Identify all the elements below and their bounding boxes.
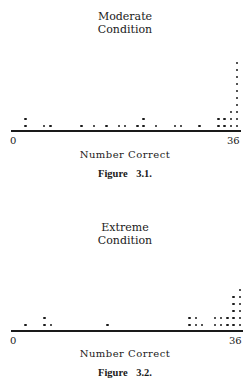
- data-dot: [226, 324, 228, 326]
- data-dot: [232, 303, 234, 305]
- data-dot: [214, 324, 216, 326]
- data-dot: [50, 324, 52, 326]
- data-dot: [226, 317, 228, 319]
- data-dot: [239, 289, 241, 291]
- x-tick-min: 0: [10, 335, 16, 346]
- data-dot: [195, 317, 197, 319]
- dot-plot-area: [0, 0, 250, 340]
- figure-extreme: Extreme Condition 0 36 Number Correct Fi…: [0, 0, 250, 389]
- data-dot: [195, 324, 197, 326]
- data-dot: [214, 317, 216, 319]
- data-dot: [24, 324, 26, 326]
- data-dot: [232, 296, 234, 298]
- data-dot: [239, 317, 241, 319]
- data-dot: [232, 310, 234, 312]
- data-dot: [43, 324, 45, 326]
- x-tick-max: 36: [229, 335, 242, 346]
- figure-caption: Figure 3.2.: [0, 367, 250, 378]
- data-dot: [106, 324, 108, 326]
- data-dot: [220, 317, 222, 319]
- data-dot: [239, 324, 241, 326]
- x-axis-line: [11, 330, 243, 332]
- data-dot: [239, 296, 241, 298]
- data-dot: [43, 317, 45, 319]
- data-dot: [232, 317, 234, 319]
- x-axis-label: Number Correct: [0, 348, 250, 359]
- data-dot: [201, 324, 203, 326]
- data-dot: [188, 317, 190, 319]
- data-dot: [239, 303, 241, 305]
- data-dot: [239, 310, 241, 312]
- data-dot: [220, 324, 222, 326]
- data-dot: [232, 324, 234, 326]
- data-dot: [188, 324, 190, 326]
